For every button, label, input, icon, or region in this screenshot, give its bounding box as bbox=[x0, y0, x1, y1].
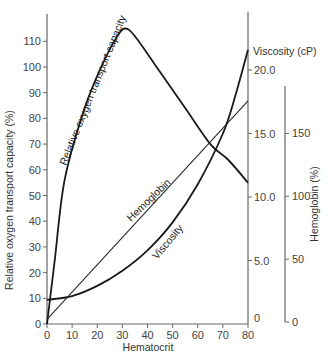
left-axis-title: Relative oxygen transport capacity (%) bbox=[3, 110, 15, 290]
left-tick-label: 10 bbox=[29, 292, 41, 304]
left-tick-label: 20 bbox=[29, 267, 41, 279]
hematocrit-chart: 0102030405060708090100110 Relative oxyge… bbox=[0, 0, 333, 358]
left-tick-label: 70 bbox=[29, 138, 41, 150]
left-tick-label: 110 bbox=[23, 35, 41, 47]
viscosity-tick-label: 5.0 bbox=[254, 255, 269, 267]
viscosity-axis-title: Viscosity (cP) bbox=[253, 45, 316, 57]
x-tick-label: 0 bbox=[44, 329, 50, 341]
left-tick-label: 40 bbox=[29, 215, 41, 227]
left-tick-label: 30 bbox=[29, 241, 41, 253]
left-tick-label: 50 bbox=[29, 190, 41, 202]
hemoglobin-curve-label: Hemoglobin bbox=[124, 176, 173, 224]
x-tick-label: 10 bbox=[66, 329, 78, 341]
viscosity-tick-label: 20.0 bbox=[254, 64, 275, 76]
left-tick-label: 0 bbox=[35, 318, 41, 330]
left-tick-label: 90 bbox=[29, 87, 41, 99]
hemoglobin-tick-label: 150 bbox=[292, 127, 310, 139]
curves bbox=[47, 29, 248, 325]
x-tick-label: 20 bbox=[91, 329, 103, 341]
x-tick-label: 30 bbox=[116, 329, 128, 341]
viscosity-curve bbox=[47, 50, 248, 300]
x-tick-label: 50 bbox=[167, 329, 179, 341]
hemoglobin-axis: 050100150 Hemoglobin (%) bbox=[285, 86, 320, 328]
x-axis-title: Hematocrit bbox=[123, 341, 174, 353]
hemoglobin-tick-label: 0 bbox=[292, 316, 298, 328]
viscosity-curve-label: Viscosity bbox=[149, 221, 185, 261]
hemoglobin-tick-label: 50 bbox=[292, 253, 304, 265]
x-tick-label: 80 bbox=[242, 329, 254, 341]
viscosity-axis: 05.010.015.020.0 Viscosity (cP) bbox=[248, 12, 316, 324]
left-tick-label: 100 bbox=[23, 61, 41, 73]
x-axis: 01020304050607080 Hematocrit bbox=[44, 324, 254, 353]
left-axis: 0102030405060708090100110 Relative oxyge… bbox=[3, 14, 47, 330]
viscosity-tick-label: 0 bbox=[254, 312, 260, 324]
oxygen-curve-label: Relative oxygen transport capacity bbox=[57, 13, 129, 167]
viscosity-tick-label: 15.0 bbox=[254, 128, 275, 140]
hemoglobin-axis-title: Hemoglobin (%) bbox=[308, 166, 320, 241]
oxygen-capacity-curve bbox=[47, 29, 248, 325]
left-tick-label: 60 bbox=[29, 164, 41, 176]
left-tick-label: 80 bbox=[29, 112, 41, 124]
viscosity-tick-label: 10.0 bbox=[254, 191, 275, 203]
x-tick-label: 40 bbox=[141, 329, 153, 341]
x-tick-label: 70 bbox=[217, 329, 229, 341]
x-tick-label: 60 bbox=[192, 329, 204, 341]
